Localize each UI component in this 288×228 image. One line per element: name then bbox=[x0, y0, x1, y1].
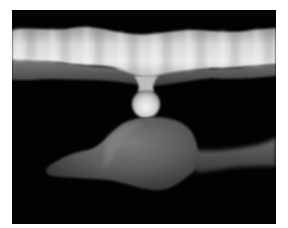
lower-structure-arm bbox=[192, 138, 276, 172]
render-canvas bbox=[12, 10, 276, 224]
stalk-bulb bbox=[132, 90, 160, 118]
render-viewport bbox=[12, 10, 276, 224]
